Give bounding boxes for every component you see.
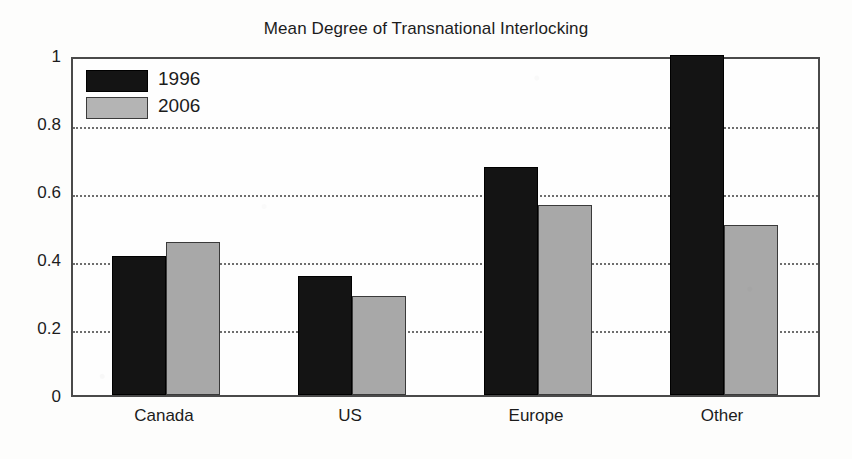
x-axis-tick-label: US <box>270 406 430 426</box>
bar-other-2006 <box>724 225 778 395</box>
bar-us-2006 <box>352 296 406 395</box>
legend-swatch-icon-2006 <box>86 97 148 119</box>
y-axis-tick-label: 0.4 <box>0 251 61 271</box>
y-axis-tick-label: 0.2 <box>0 319 61 339</box>
bar-canada-1996 <box>112 256 166 395</box>
y-axis-tick-label: 0.6 <box>0 183 61 203</box>
y-axis-tick-label: 0.8 <box>0 115 61 135</box>
x-axis-tick-label: Europe <box>456 406 616 426</box>
bar-us-1996 <box>298 276 352 395</box>
legend-swatch-icon-1996 <box>86 70 148 92</box>
bar-europe-2006 <box>538 205 592 395</box>
chart-page: Mean Degree of Transnational Interlockin… <box>0 0 852 459</box>
legend-label-1996: 1996 <box>158 68 200 90</box>
chart-title: Mean Degree of Transnational Interlockin… <box>0 19 852 39</box>
y-axis-tick-label: 0 <box>0 387 61 407</box>
x-axis-tick-label: Canada <box>84 406 244 426</box>
y-axis-tick-label: 1 <box>0 47 61 67</box>
bar-europe-1996 <box>484 167 538 395</box>
legend-label-2006: 2006 <box>158 95 200 117</box>
bar-canada-2006 <box>166 242 220 395</box>
x-axis-tick-label: Other <box>642 406 802 426</box>
bar-other-1996 <box>670 55 724 395</box>
